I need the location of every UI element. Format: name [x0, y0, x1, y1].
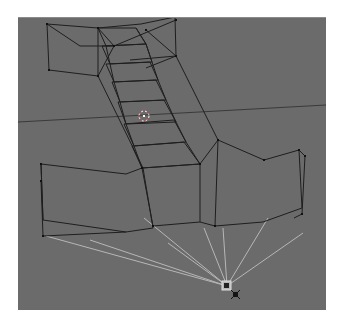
3d-viewport[interactable] — [18, 17, 326, 310]
lamp-icon[interactable] — [222, 281, 231, 290]
page — [0, 0, 345, 327]
bottom-crossbar-mesh[interactable] — [41, 140, 305, 236]
mesh-vertices — [40, 19, 306, 237]
top-crossbar-mesh[interactable] — [47, 18, 176, 76]
viewport-canvas[interactable] — [18, 18, 326, 310]
header-bar — [0, 0, 345, 16]
lamp-target-icon[interactable] — [231, 290, 240, 299]
3d-cursor-icon[interactable] — [139, 111, 149, 121]
lamp-rays — [46, 218, 303, 286]
